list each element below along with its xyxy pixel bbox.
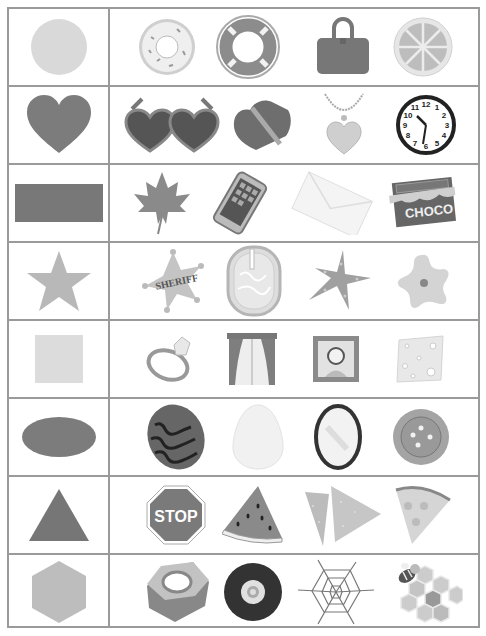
life-ring-icon — [208, 9, 288, 85]
heart-shape-icon — [26, 95, 92, 155]
hex-nut-icon — [138, 555, 218, 628]
row-hexagon — [9, 555, 478, 628]
donut-icon — [127, 9, 207, 85]
svg-text:2: 2 — [442, 111, 447, 120]
shape-cell-hexagon — [9, 555, 110, 628]
shape-cell-rectangle — [9, 165, 110, 241]
shape-cell-circle — [9, 9, 110, 85]
watermelon-slice-icon — [213, 477, 293, 553]
row-circle — [9, 9, 478, 87]
svg-text:3: 3 — [445, 121, 450, 130]
svg-text:STOP: STOP — [154, 508, 198, 525]
shape-matching-grid: 121234567891011 CHOCO — [7, 7, 480, 628]
row-star: SHERIFF — [9, 243, 478, 321]
stop-sign-icon: STOP — [136, 477, 216, 553]
pool-icon — [214, 243, 294, 319]
button-icon — [381, 399, 461, 475]
svg-text:9: 9 — [403, 121, 408, 130]
svg-text:5: 5 — [435, 139, 440, 148]
cheese-slice-icon — [380, 321, 460, 397]
shape-cell-oval — [9, 399, 110, 475]
rectangle-shape-icon — [15, 183, 103, 223]
triangle-shape-icon — [27, 487, 91, 543]
star-shape-icon — [26, 249, 92, 313]
maple-leaf-icon — [132, 165, 192, 241]
star-cookie-icon — [384, 243, 464, 319]
heart-necklace-icon — [304, 87, 384, 163]
window-curtains-icon — [212, 321, 292, 397]
circle-shape-icon — [29, 17, 89, 77]
diamond-ring-icon — [132, 321, 212, 397]
envelope-icon — [288, 165, 378, 241]
svg-text:6: 6 — [424, 142, 429, 151]
egg-icon — [218, 399, 298, 475]
row-square — [9, 321, 478, 399]
hexagon-shape-icon — [31, 560, 87, 624]
honeycomb-bee-icon — [385, 555, 465, 628]
square-shape-icon — [34, 334, 84, 384]
row-rectangle: CHOCO — [9, 165, 478, 243]
mirror-icon — [298, 399, 378, 475]
wall-clock-icon: 121234567891011 — [386, 87, 466, 163]
handbag-icon — [303, 9, 383, 85]
shape-cell-triangle — [9, 477, 110, 553]
tortilla-chips-icon — [296, 477, 392, 553]
svg-text:10: 10 — [404, 111, 413, 120]
oval-shape-icon — [21, 416, 97, 458]
spider-web-icon — [296, 555, 376, 628]
tire-icon — [213, 555, 293, 628]
pizza-slice-icon — [383, 477, 463, 553]
shape-cell-star — [9, 243, 110, 319]
starfish-icon — [300, 243, 380, 319]
svg-text:4: 4 — [442, 131, 447, 140]
svg-text:11: 11 — [411, 103, 420, 112]
row-triangle: STOP — [9, 477, 478, 555]
smartphone-icon — [205, 165, 275, 241]
svg-text:7: 7 — [413, 139, 418, 148]
heart-sunglasses-icon — [124, 87, 220, 163]
svg-text:1: 1 — [435, 103, 440, 112]
sheriff-badge-icon: SHERIFF — [134, 243, 214, 319]
svg-text:8: 8 — [406, 131, 411, 140]
shape-cell-square — [9, 321, 110, 397]
row-heart: 121234567891011 — [9, 87, 478, 165]
lemon-slice-icon — [383, 9, 463, 85]
chocolate-bar-icon: CHOCO — [390, 165, 460, 241]
picture-frame-icon — [296, 321, 376, 397]
svg-text:12: 12 — [422, 100, 431, 109]
row-oval — [9, 399, 478, 477]
shape-cell-heart — [9, 87, 110, 163]
watermelon-icon — [136, 399, 216, 475]
heart-chocolate-box-icon — [222, 87, 302, 163]
